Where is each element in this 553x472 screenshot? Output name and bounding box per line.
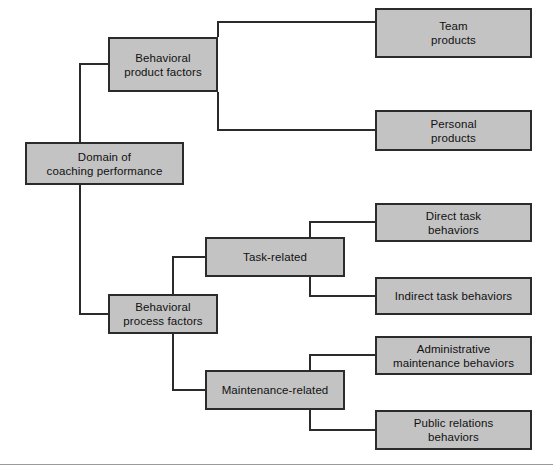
node-personal-products-label: Personal products xyxy=(426,117,480,145)
edge-root-to-process xyxy=(80,185,108,314)
edge-root-to-product xyxy=(80,64,108,142)
node-public-relations-behaviors-label: Public relations behaviors xyxy=(410,416,498,444)
node-maintenance-related-label: Maintenance-related xyxy=(218,383,333,397)
node-behavioral-product-factors: Behavioral product factors xyxy=(108,37,218,92)
node-team-products-label: Team products xyxy=(427,19,480,47)
node-behavioral-product-factors-label: Behavioral product factors xyxy=(120,51,206,79)
node-task-related: Task-related xyxy=(205,237,345,277)
node-root-label: Domain of coaching performance xyxy=(43,150,167,178)
node-indirect-task-behaviors-label: Indirect task behaviors xyxy=(391,289,516,303)
node-administrative-maintenance-behaviors: Administrative maintenance behaviors xyxy=(375,336,532,375)
node-indirect-task-behaviors: Indirect task behaviors xyxy=(375,277,532,315)
node-maintenance-related: Maintenance-related xyxy=(205,370,345,410)
edge-process-to-maintenance xyxy=(173,334,205,390)
edge-product-to-team xyxy=(218,22,375,37)
edge-product-to-personal xyxy=(218,92,375,130)
node-root: Domain of coaching performance xyxy=(25,142,184,185)
node-administrative-maintenance-behaviors-label: Administrative maintenance behaviors xyxy=(389,342,518,370)
node-task-related-label: Task-related xyxy=(239,250,311,264)
node-personal-products: Personal products xyxy=(375,110,532,151)
node-public-relations-behaviors: Public relations behaviors xyxy=(375,410,532,450)
node-team-products: Team products xyxy=(375,8,532,58)
edge-task-to-indirect xyxy=(310,277,375,296)
node-behavioral-process-factors-label: Behavioral process factors xyxy=(119,300,206,328)
diagram-canvas: Domain of coaching performance Behaviora… xyxy=(0,0,553,472)
bottom-divider-rule xyxy=(0,464,553,465)
edge-task-to-direct xyxy=(310,222,375,237)
edge-maintenance-to-public xyxy=(310,410,375,430)
edge-process-to-task xyxy=(173,257,205,294)
node-direct-task-behaviors-label: Direct task behaviors xyxy=(422,209,485,237)
edge-maintenance-to-administrative xyxy=(310,355,375,370)
node-behavioral-process-factors: Behavioral process factors xyxy=(108,294,218,334)
node-direct-task-behaviors: Direct task behaviors xyxy=(375,203,532,242)
